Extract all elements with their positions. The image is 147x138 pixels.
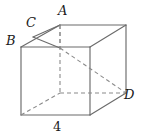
vertex-label-c: C	[26, 16, 36, 29]
hidden-edge-bottom-left-receding	[21, 93, 60, 115]
cube-diagram	[0, 0, 147, 138]
construction-dashed-lines	[60, 25, 126, 93]
segment-c-to-front-top-right	[33, 37, 60, 48]
edge-top-right-receding	[90, 25, 126, 47]
vertex-label-a: A	[58, 4, 67, 17]
vertex-label-d: D	[124, 88, 134, 101]
construction-solid-lines	[33, 25, 60, 48]
segment-front-top-right-to-d	[60, 48, 126, 93]
edge-bottom-right-receding	[90, 93, 126, 115]
vertex-label-b: B	[6, 34, 16, 47]
segment-c-to-a	[33, 25, 60, 37]
edge-length-label: 4	[53, 120, 61, 133]
geometry-figure: A C B D 4	[0, 0, 147, 138]
